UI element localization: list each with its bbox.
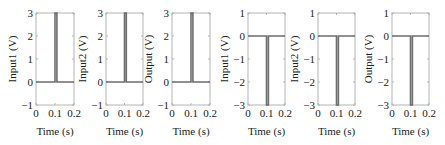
- subplot-3: −1012300.10.2Time (s)Output (V): [142, 7, 217, 138]
- x-axis-label: Time (s): [36, 125, 74, 138]
- x-tick-label: 0.1: [260, 107, 274, 119]
- y-axis-label: Input1 (V): [6, 35, 19, 82]
- y-tick-label: 0: [98, 76, 104, 88]
- x-axis-label: Time (s): [318, 125, 356, 138]
- y-tick-label: 0: [310, 30, 316, 42]
- y-tick-label: 0: [164, 76, 170, 88]
- y-tick-label: −3: [303, 99, 315, 111]
- x-tick-label: 0.2: [422, 107, 436, 119]
- y-tick-label: −2: [303, 76, 315, 88]
- y-tick-label: 0: [240, 30, 246, 42]
- y-tick-label: 0: [384, 30, 390, 42]
- y-tick-label: 1: [98, 53, 104, 65]
- y-tick-label: 0: [28, 76, 34, 88]
- y-tick-label: 3: [164, 7, 170, 19]
- y-tick-label: 1: [384, 7, 390, 19]
- x-tick-label: 0.1: [48, 107, 62, 119]
- y-tick-label: −2: [377, 76, 389, 88]
- x-tick-label: 0.1: [118, 107, 132, 119]
- subplot-5: −3−2−10100.10.2Time (s)Input2 (V): [288, 7, 362, 138]
- x-tick-label: 0: [103, 107, 109, 119]
- y-tick-label: 1: [240, 7, 246, 19]
- subplot-2: −1012300.10.2Time (s)Input2 (V): [76, 7, 150, 138]
- y-tick-label: 1: [28, 53, 34, 65]
- y-tick-label: 1: [164, 53, 170, 65]
- y-tick-label: 3: [28, 7, 34, 19]
- x-tick-label: 0: [245, 107, 251, 119]
- y-tick-label: −3: [377, 99, 389, 111]
- y-axis-label: Output (V): [142, 34, 155, 83]
- x-axis-label: Time (s): [392, 125, 430, 138]
- x-axis-label: Time (s): [248, 125, 286, 138]
- x-tick-label: 0.1: [330, 107, 344, 119]
- y-tick-label: −3: [233, 99, 245, 111]
- x-tick-label: 0: [33, 107, 39, 119]
- x-tick-label: 0.2: [348, 107, 362, 119]
- x-tick-label: 0.1: [184, 107, 198, 119]
- y-tick-label: −1: [21, 99, 33, 111]
- y-tick-label: −1: [377, 53, 389, 65]
- subplot-6: −3−2−10100.10.2Time (s)Output (V): [362, 7, 436, 138]
- y-tick-label: −1: [91, 99, 103, 111]
- x-tick-label: 0.1: [404, 107, 418, 119]
- x-tick-label: 0.2: [203, 107, 217, 119]
- x-tick-label: 0: [169, 107, 175, 119]
- y-tick-label: −1: [303, 53, 315, 65]
- x-tick-label: 0: [389, 107, 395, 119]
- y-tick-label: −1: [233, 53, 245, 65]
- y-tick-label: 1: [310, 7, 316, 19]
- y-axis-label: Input2 (V): [288, 35, 301, 82]
- y-tick-label: −1: [157, 99, 169, 111]
- y-axis-label: Input2 (V): [76, 35, 89, 82]
- y-tick-label: 3: [98, 7, 104, 19]
- y-tick-label: 2: [98, 30, 104, 42]
- subplot-4: −3−2−10100.10.2Time (s)Input1 (V): [218, 7, 292, 138]
- subplot-1: −1012300.10.2Time (s)Input1 (V): [6, 7, 81, 138]
- x-tick-label: 0.2: [278, 107, 292, 119]
- x-tick-label: 0.2: [67, 107, 81, 119]
- x-tick-label: 0.2: [136, 107, 150, 119]
- y-axis-label: Output (V): [362, 34, 375, 83]
- x-axis-label: Time (s): [172, 125, 210, 138]
- y-tick-label: −2: [233, 76, 245, 88]
- x-axis-label: Time (s): [106, 125, 144, 138]
- y-axis-label: Input1 (V): [218, 35, 231, 82]
- y-tick-label: 2: [164, 30, 170, 42]
- x-tick-label: 0: [315, 107, 321, 119]
- figure: −1012300.10.2Time (s)Input1 (V)−1012300.…: [0, 0, 445, 145]
- y-tick-label: 2: [28, 30, 34, 42]
